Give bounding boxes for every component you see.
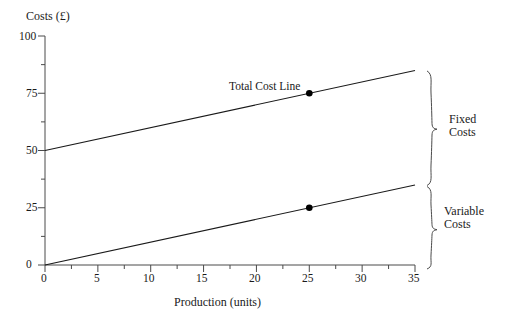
variable-costs-brace xyxy=(427,187,437,270)
x-tick-label-15: 15 xyxy=(196,272,208,285)
x-tick-label-20: 20 xyxy=(249,272,261,285)
y-tick-label-0: 0 xyxy=(26,258,32,271)
x-tick-label-30: 30 xyxy=(355,272,367,285)
variable-costs-label: Variable Costs xyxy=(444,205,484,232)
y-tick-label-25: 25 xyxy=(26,201,38,214)
y-tick-label-75: 75 xyxy=(26,87,38,100)
total-cost-line-label: Total Cost Line xyxy=(229,80,300,93)
y-tick-label-100: 100 xyxy=(19,30,36,43)
x-tick-label-25: 25 xyxy=(302,272,314,285)
fixed-costs-label-line1: Fixed xyxy=(449,113,476,126)
y-tick-label-50: 50 xyxy=(26,144,38,157)
fixed-costs-label: Fixed Costs xyxy=(449,113,476,140)
x-axis-minor-ticks xyxy=(71,265,388,269)
total-cost-marker xyxy=(306,90,313,97)
variable-costs-label-line2: Costs xyxy=(444,218,484,231)
y-axis-major-ticks xyxy=(38,36,45,265)
x-tick-label-35: 35 xyxy=(408,272,420,285)
cost-behaviour-chart: Costs (£) Production (units) 0 25 50 75 … xyxy=(0,0,514,328)
x-tick-label-0: 0 xyxy=(41,272,47,285)
fixed-costs-brace xyxy=(427,71,437,186)
variable-costs-label-line1: Variable xyxy=(444,205,484,218)
x-axis-title: Production (units) xyxy=(174,296,261,309)
variable-cost-line xyxy=(45,185,415,265)
x-tick-label-10: 10 xyxy=(143,272,155,285)
variable-cost-marker xyxy=(306,204,313,211)
fixed-costs-label-line2: Costs xyxy=(449,126,476,139)
y-axis-title: Costs (£) xyxy=(26,10,70,23)
x-tick-label-5: 5 xyxy=(94,272,100,285)
